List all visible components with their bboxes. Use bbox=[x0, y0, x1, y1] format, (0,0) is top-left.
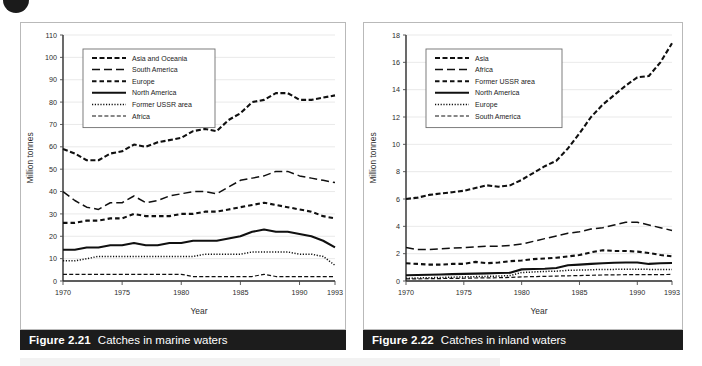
y-tick-label: 8 bbox=[396, 167, 400, 176]
page-bottom-band bbox=[20, 358, 500, 366]
series-line-2 bbox=[63, 203, 335, 223]
legend-label-4: Europe bbox=[475, 101, 498, 109]
x-tick-label: 1980 bbox=[514, 288, 530, 297]
y-tick-label: 20 bbox=[49, 232, 57, 241]
x-tick-label: 1970 bbox=[398, 288, 414, 297]
x-axis-title: Year bbox=[531, 306, 548, 316]
figure-catches-inland-waters: 024681012141618197019751980198519901993Y… bbox=[363, 22, 683, 350]
y-axis-title: Million tonnes bbox=[25, 132, 35, 183]
legend-label-1: South America bbox=[132, 66, 178, 73]
caption-text: Catches in inland waters bbox=[441, 334, 566, 346]
y-tick-label: 2 bbox=[396, 249, 400, 258]
x-tick-label: 1993 bbox=[327, 288, 343, 297]
y-tick-label: 90 bbox=[49, 75, 57, 84]
legend-label-0: Asia bbox=[475, 55, 489, 62]
series-line-3 bbox=[63, 230, 335, 250]
figure-catches-marine-waters: 0102030405060708090100110197019751980198… bbox=[20, 22, 346, 350]
y-tick-label: 12 bbox=[392, 113, 400, 122]
y-tick-label: 60 bbox=[49, 142, 57, 151]
y-tick-label: 110 bbox=[46, 31, 57, 40]
y-tick-label: 40 bbox=[49, 187, 57, 196]
legend-label-5: South America bbox=[475, 113, 521, 120]
x-tick-label: 1985 bbox=[571, 288, 587, 297]
figure-frame: 024681012141618197019751980198519901993Y… bbox=[363, 22, 683, 330]
legend-label-3: North America bbox=[475, 89, 519, 96]
y-tick-label: 50 bbox=[49, 165, 57, 174]
y-tick-label: 0 bbox=[396, 277, 400, 286]
legend-label-2: Former USSR area bbox=[475, 78, 535, 85]
y-tick-label: 16 bbox=[392, 58, 400, 67]
filled-circle-bullet-icon bbox=[3, 0, 29, 13]
caption-text: Catches in marine waters bbox=[98, 334, 228, 346]
legend-label-5: Africa bbox=[132, 113, 150, 120]
y-tick-label: 4 bbox=[396, 222, 400, 231]
caption-number: Figure 2.22 bbox=[372, 334, 434, 346]
series-line-1 bbox=[63, 171, 335, 209]
legend-label-0: Asia and Oceania bbox=[132, 55, 187, 62]
y-tick-label: 100 bbox=[45, 53, 57, 62]
figure-caption: Figure 2.22 Catches in inland waters bbox=[363, 330, 683, 350]
x-axis-title: Year bbox=[191, 306, 208, 316]
y-tick-label: 80 bbox=[49, 98, 57, 107]
y-tick-label: 0 bbox=[53, 277, 57, 286]
x-tick-label: 1980 bbox=[173, 288, 189, 297]
y-tick-label: 10 bbox=[392, 140, 400, 149]
y-tick-label: 14 bbox=[392, 85, 400, 94]
figure-frame: 0102030405060708090100110197019751980198… bbox=[20, 22, 346, 330]
legend-label-3: North America bbox=[132, 89, 176, 96]
chart-legend: AsiaAfricaFormer USSR areaNorth AmericaE… bbox=[426, 49, 562, 128]
x-tick-label: 1985 bbox=[232, 288, 248, 297]
figure-page: 0102030405060708090100110197019751980198… bbox=[0, 0, 702, 366]
y-tick-label: 6 bbox=[396, 195, 400, 204]
legend-label-2: Europe bbox=[132, 78, 155, 86]
caption-number: Figure 2.21 bbox=[29, 334, 91, 346]
legend-label-4: Former USSR area bbox=[132, 101, 192, 108]
x-tick-label: 1975 bbox=[456, 288, 472, 297]
y-tick-label: 10 bbox=[49, 254, 57, 263]
y-tick-label: 70 bbox=[49, 120, 57, 129]
chart-canvas: 024681012141618197019751980198519901993Y… bbox=[364, 23, 682, 329]
x-tick-label: 1993 bbox=[664, 288, 680, 297]
chart-canvas: 0102030405060708090100110197019751980198… bbox=[21, 23, 345, 329]
y-tick-label: 18 bbox=[392, 31, 400, 40]
chart-legend: Asia and OceaniaSouth AmericaEuropeNorth… bbox=[83, 49, 215, 128]
y-axis-title: Million tonnes bbox=[368, 132, 378, 183]
x-tick-label: 1990 bbox=[629, 288, 645, 297]
figure-caption: Figure 2.21 Catches in marine waters bbox=[20, 330, 346, 350]
legend-label-1: Africa bbox=[475, 66, 493, 73]
y-tick-label: 30 bbox=[49, 210, 57, 219]
series-line-5 bbox=[63, 274, 335, 276]
x-tick-label: 1975 bbox=[114, 288, 130, 297]
x-tick-label: 1990 bbox=[292, 288, 308, 297]
x-tick-label: 1970 bbox=[55, 288, 71, 297]
